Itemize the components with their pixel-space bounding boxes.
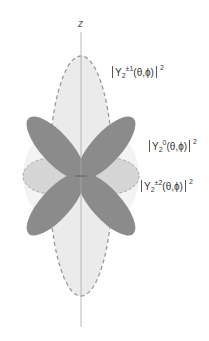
label-base: Y <box>115 67 122 78</box>
label-subscript: 2 <box>122 72 126 79</box>
label-y2-0: Y20(θ,ϕ)2 <box>147 136 197 156</box>
label-power: 2 <box>160 64 164 71</box>
label-y2-pm1: Y2±1(θ,ϕ)2 <box>110 62 164 82</box>
abs-bar-left <box>141 180 142 192</box>
abs-bar-right <box>156 66 157 78</box>
label-base: Y <box>152 141 159 152</box>
label-power: 2 <box>193 138 197 145</box>
abs-bar-right <box>189 140 190 152</box>
label-args: (θ,ϕ) <box>162 181 183 192</box>
abs-bar-left <box>149 140 150 152</box>
label-y2-pm2: Y2±2(θ,ϕ)2 <box>139 176 193 196</box>
label-subscript: 2 <box>159 146 163 153</box>
label-args: (θ,ϕ) <box>133 67 154 78</box>
label-subscript: 2 <box>151 186 155 193</box>
label-args: (θ,ϕ) <box>166 141 187 152</box>
label-base: Y <box>144 181 151 192</box>
spherical-harmonics-diagram <box>0 0 209 341</box>
z-axis-label: z <box>78 18 83 29</box>
abs-bar-left <box>112 66 113 78</box>
abs-bar-right <box>185 180 186 192</box>
label-power: 2 <box>189 178 193 185</box>
